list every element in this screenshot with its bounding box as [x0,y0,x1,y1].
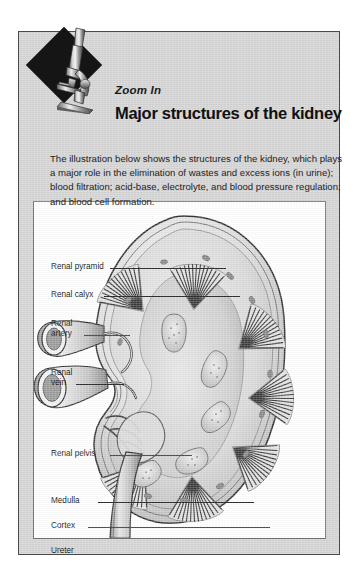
label-renal-pyramid: Renal pyramid [51,262,104,273]
leader-line-renal-vein [76,384,124,385]
microscope-badge [31,26,117,116]
microscope-icon [45,26,107,114]
label-renal-pelvis: Renal pelvis [51,449,96,460]
zoom-in-panel: Zoom In Major structures of the kidney T… [18,31,340,555]
label-cortex: Cortex [51,521,75,532]
leader-line-renal-artery [84,335,130,336]
label-renal-calyx: Renal calyx [51,290,93,301]
leader-line-renal-calyx [104,296,240,297]
illustration-frame [33,201,326,539]
label-medulla: Medulla [51,496,80,507]
label-renal-artery-line2: artery [51,329,72,340]
label-renal-vein-line1: Renal [51,368,72,379]
leader-line-renal-pyramid [110,268,226,269]
page-root: Zoom In Major structures of the kidney T… [0,0,360,575]
leader-line-medulla [98,502,254,503]
intro-paragraph: The illustration below shows the structu… [50,152,346,209]
leader-line-renal-pelvis [110,455,192,456]
leader-line-cortex [88,527,270,528]
page-title: Major structures of the kidney [115,104,342,123]
eyebrow-label: Zoom In [115,84,161,96]
label-ureter: Ureter [51,546,74,557]
kidney-illustration [34,202,325,538]
label-renal-artery-line1: Renal [51,319,72,330]
label-renal-vein-line2: vein [51,378,66,389]
